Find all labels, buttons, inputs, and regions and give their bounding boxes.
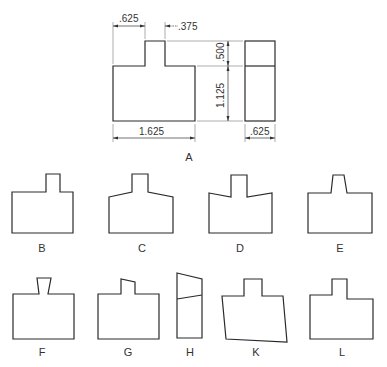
svg-text:F: F (39, 346, 46, 358)
svg-text:.625: .625 (119, 13, 139, 24)
svg-text:D: D (236, 242, 244, 254)
svg-text:1.625: 1.625 (139, 126, 164, 137)
option-l[interactable]: L (310, 279, 373, 358)
option-k[interactable]: K (222, 279, 287, 358)
extension-lines (113, 22, 275, 142)
svg-text:H: H (186, 346, 194, 358)
dimension-tab-height: .500 (215, 41, 230, 66)
side-view-outline (245, 41, 275, 121)
svg-text:E: E (336, 242, 343, 254)
option-h[interactable]: H (177, 273, 202, 358)
option-f[interactable]: F (13, 278, 74, 358)
option-g[interactable]: G (98, 279, 159, 358)
svg-text:.625: .625 (250, 126, 270, 137)
svg-text:K: K (252, 346, 260, 358)
svg-text:L: L (339, 346, 345, 358)
drawing-canvas: .625 .375 .500 1.125 1.625 (0, 0, 387, 367)
dimension-body-height: 1.125 (215, 66, 230, 121)
figure-label-a: A (185, 151, 193, 163)
svg-text:1.125: 1.125 (215, 83, 226, 108)
dimension-depth: .625 (245, 126, 275, 140)
dimension-tab-width: .375 (165, 21, 198, 32)
dimension-tab-offset: .625 (113, 13, 145, 28)
svg-text:C: C (138, 242, 146, 254)
dimension-total-width: 1.625 (113, 126, 195, 140)
figure-a: .625 .375 .500 1.125 1.625 (113, 13, 275, 163)
svg-text:.500: .500 (215, 42, 226, 62)
front-view-outline (113, 41, 195, 121)
option-d[interactable]: D (209, 175, 272, 254)
svg-text:G: G (124, 346, 133, 358)
option-c[interactable]: C (109, 174, 173, 254)
svg-text:.375: .375 (178, 21, 198, 32)
svg-text:B: B (38, 242, 45, 254)
option-b[interactable]: B (12, 174, 73, 254)
option-e[interactable]: E (308, 175, 372, 254)
